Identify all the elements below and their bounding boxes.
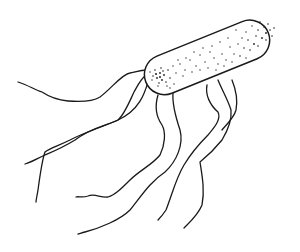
flagellum: [18, 70, 148, 102]
flagella: [18, 70, 237, 234]
flagellum: [78, 93, 181, 234]
flagellum: [25, 75, 146, 164]
bacterium-illustration: Line drawing of a stippled rod-shaped ba…: [0, 0, 300, 252]
flagellum: [76, 95, 164, 197]
